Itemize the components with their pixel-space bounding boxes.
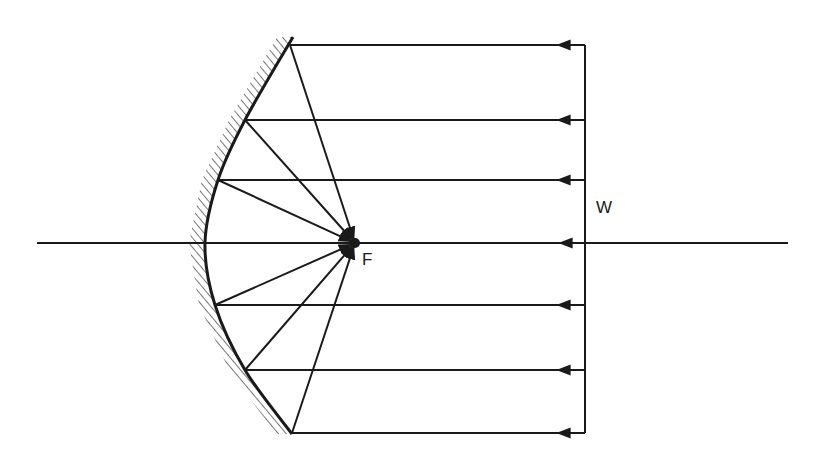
optical-axis (37, 238, 788, 248)
ray (215, 245, 585, 305)
reflected-ray (292, 247, 354, 433)
parabolic-mirror-diagram (0, 0, 817, 471)
reflected-ray (290, 45, 354, 239)
ray (218, 180, 585, 241)
ray (245, 246, 585, 370)
reflected-ray (245, 246, 352, 370)
reflected-ray (218, 180, 351, 241)
ray (292, 247, 585, 433)
focus-label: F (362, 250, 372, 270)
reflected-ray (215, 245, 351, 305)
ray (290, 45, 585, 239)
light-rays (215, 45, 585, 433)
wavefront-label: W (596, 198, 612, 218)
